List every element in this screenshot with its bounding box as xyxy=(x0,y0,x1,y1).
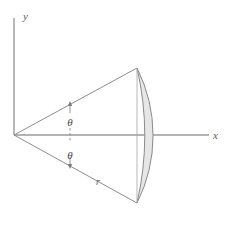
upper-radius-line xyxy=(14,68,137,135)
x-axis: x xyxy=(14,129,218,141)
spherical-cap-diagram: y x θ θ r xyxy=(0,0,228,228)
lower-theta-label: θ xyxy=(67,149,73,161)
lower-radius-line xyxy=(14,135,137,203)
figure-container: y x θ θ r xyxy=(0,0,228,228)
upper-theta-label: θ xyxy=(67,116,73,128)
radius-label: r xyxy=(96,176,100,187)
y-axis-label: y xyxy=(22,10,28,22)
x-axis-label: x xyxy=(212,129,218,141)
y-axis: y xyxy=(14,10,28,135)
